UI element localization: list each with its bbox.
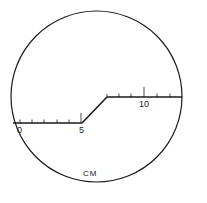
microscope-field-diagram: 0 5 10 CM (0, 0, 207, 203)
scale-offset-line (82, 97, 107, 123)
scale-label-0: 0 (17, 125, 22, 135)
scale-label-5: 5 (79, 125, 84, 135)
unit-label: CM (83, 169, 97, 178)
upper-scale (107, 87, 182, 97)
lower-scale (13, 113, 82, 123)
scale-label-10: 10 (139, 99, 149, 109)
